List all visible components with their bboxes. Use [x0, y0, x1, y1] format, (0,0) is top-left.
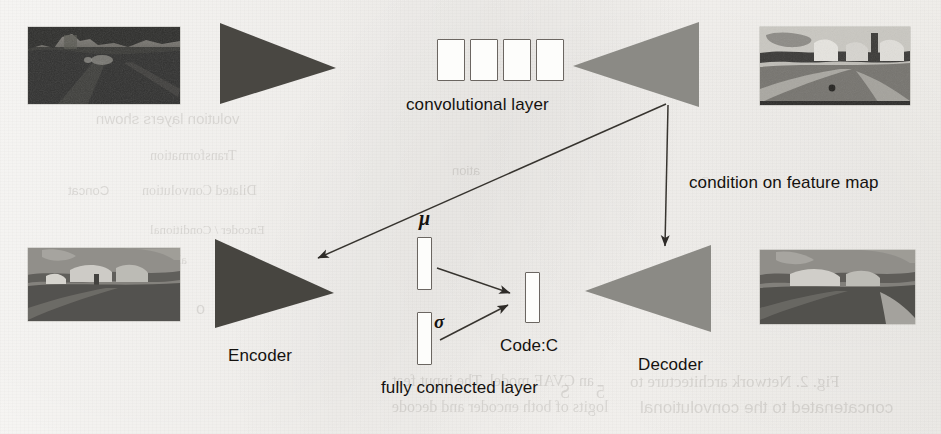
fully-connected-layer-label: fully connected layer — [381, 378, 538, 398]
conv-feature-map-1 — [437, 39, 465, 81]
sigma-symbol: σ — [434, 311, 444, 333]
bleed-through-text: 5 — [596, 382, 605, 403]
edge-sigma-to-code — [440, 305, 508, 340]
edge-conv-to-decoder — [665, 105, 668, 246]
top-encoder-triangle — [219, 22, 337, 105]
code-label: Code:C — [500, 336, 558, 356]
output-segmentation-map — [760, 27, 910, 105]
edge-mu-to-code — [437, 268, 510, 293]
bleed-through-text: o — [196, 300, 205, 318]
mu-symbol: μ — [419, 207, 430, 230]
mu-bar — [417, 237, 432, 290]
convolutional-layer-label: convolutional layer — [406, 95, 549, 115]
bottom-decoder-triangle — [584, 243, 712, 333]
bleed-through-text: S — [560, 382, 570, 403]
bleed-through-text: logits of both encoder and decode — [392, 398, 608, 416]
conv-feature-map-4 — [536, 39, 564, 81]
bleed-through-text: Fig. 2. Network architecture to — [630, 372, 840, 392]
conv-feature-map-2 — [470, 39, 498, 81]
bleed-through-text: Dilated Convolution — [142, 183, 257, 199]
conv-feature-map-3 — [503, 39, 531, 81]
bleed-through-text: volution layers shown — [96, 110, 239, 127]
bleed-through-text: Concat — [68, 183, 109, 198]
bleed-through-text: ation — [452, 163, 480, 178]
bleed-through-text: concatenated to the convolutional — [640, 398, 893, 418]
bleed-through-text: Transformation — [150, 148, 237, 164]
bleed-through-text: Encoder / Conditional — [150, 222, 265, 238]
condition-on-feature-map-label: condition on feature map — [689, 173, 879, 193]
sigma-bar — [417, 312, 432, 365]
input-photo — [28, 27, 180, 104]
encoder-label: Encoder — [228, 346, 292, 366]
reconstructed-segmentation-map — [760, 250, 915, 324]
groundtruth-segmentation-map — [28, 248, 180, 321]
edge-conv-to-encoder — [318, 104, 666, 258]
top-decoder-triangle — [572, 20, 700, 108]
figure-canvas: volution layers shownTransformationDilat… — [0, 0, 941, 434]
bottom-encoder-triangle — [213, 237, 335, 329]
code-bar — [525, 272, 540, 323]
decoder-label: Decoder — [638, 355, 703, 375]
